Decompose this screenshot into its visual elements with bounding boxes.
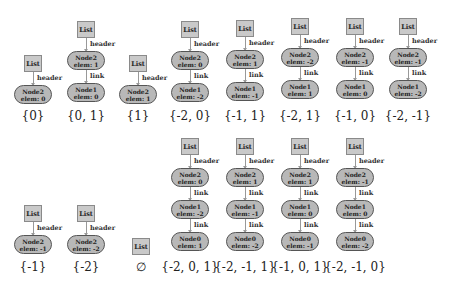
edge-label: link <box>359 221 373 229</box>
edge-label: link <box>90 72 104 80</box>
list-node: Node2elem: 0 <box>171 168 209 187</box>
list-node: Node2elem: 1 <box>67 51 105 70</box>
node-elem: elem: -2 <box>227 242 263 249</box>
node-elem: elem: -2 <box>390 90 426 97</box>
edge-label: link <box>249 71 263 79</box>
node-name: Node0 <box>227 235 263 242</box>
node-elem: elem: 1 <box>282 178 318 185</box>
edge-label: header <box>359 157 384 165</box>
edge-label: link <box>194 72 208 80</box>
edge-arrow <box>355 35 356 48</box>
list-box: List <box>291 18 309 35</box>
node-name: Node1 <box>172 86 208 93</box>
node-elem: elem: 1 <box>227 178 263 185</box>
set-label: ∅ <box>136 260 146 274</box>
list-node: Node1elem: -2 <box>389 80 427 99</box>
list-node: Node2elem: -1 <box>336 48 374 67</box>
edge-arrow <box>355 155 356 168</box>
edge-label: link <box>412 69 426 77</box>
list-node: Node1elem: 0 <box>67 83 105 102</box>
list-node: Node0elem: 1 <box>171 232 209 251</box>
edge-arrow <box>245 187 246 200</box>
list-box: List <box>346 18 364 35</box>
edge-label: header <box>359 37 384 45</box>
node-name: Node1 <box>227 203 263 210</box>
edge-label: header <box>304 37 329 45</box>
edge-label: header <box>249 39 274 47</box>
list-box: List <box>236 138 254 155</box>
edge-label: link <box>194 221 208 229</box>
list-box: List <box>24 205 42 222</box>
edge-arrow <box>245 219 246 232</box>
edge-label: header <box>412 37 437 45</box>
set-label: {-2, 0} <box>169 109 211 123</box>
node-elem: elem: 0 <box>172 61 208 68</box>
node-elem: elem: -2 <box>68 245 104 252</box>
edge-arrow <box>245 69 246 82</box>
node-name: Node1 <box>390 83 426 90</box>
edge-label: link <box>304 189 318 197</box>
node-name: Node1 <box>337 83 373 90</box>
node-name: Node2 <box>227 171 263 178</box>
list-node: Node2elem: 1 <box>226 50 264 69</box>
edge-arrow <box>245 155 246 168</box>
node-name: Node2 <box>337 51 373 58</box>
edge-label: header <box>37 74 62 82</box>
edge-arrow <box>300 187 301 200</box>
list-box: List <box>132 238 150 255</box>
set-label: {-2} <box>73 260 100 274</box>
list-node: Node2elem: 0 <box>14 85 52 104</box>
edge-arrow <box>300 155 301 168</box>
node-elem: elem: 1 <box>120 95 156 102</box>
edge-label: header <box>304 157 329 165</box>
list-node: Node1elem: 0 <box>281 200 319 219</box>
list-node: Node2elem: -1 <box>336 168 374 187</box>
set-label: {0, 1} <box>67 109 105 123</box>
edge-arrow <box>245 37 246 50</box>
edge-arrow <box>190 70 191 83</box>
edge-label: link <box>359 69 373 77</box>
list-box: List <box>181 21 199 38</box>
list-box: List <box>291 138 309 155</box>
node-elem: elem: 0 <box>68 93 104 100</box>
node-name: Node1 <box>282 203 318 210</box>
node-name: Node2 <box>390 51 426 58</box>
node-elem: elem: 0 <box>172 178 208 185</box>
edge-label: header <box>194 40 219 48</box>
node-elem: elem: 1 <box>282 90 318 97</box>
list-node: Node1elem: -1 <box>226 200 264 219</box>
edge-arrow <box>138 72 139 85</box>
list-box: List <box>129 55 147 72</box>
node-name: Node0 <box>282 235 318 242</box>
node-elem: elem: -2 <box>172 93 208 100</box>
set-label: {-1, 0} <box>334 109 376 123</box>
edge-label: header <box>249 157 274 165</box>
node-elem: elem: -1 <box>390 58 426 65</box>
node-name: Node2 <box>120 88 156 95</box>
edge-arrow <box>190 38 191 51</box>
edge-arrow <box>86 70 87 83</box>
set-label: {0} <box>22 109 45 123</box>
set-label: {-2, -1} <box>385 109 431 123</box>
node-name: Node2 <box>68 238 104 245</box>
node-elem: elem: 0 <box>282 210 318 217</box>
edge-arrow <box>408 35 409 48</box>
list-node: Node1elem: -2 <box>171 83 209 102</box>
list-node: Node0elem: -1 <box>281 232 319 251</box>
node-name: Node2 <box>172 171 208 178</box>
node-elem: elem: -2 <box>337 242 373 249</box>
list-node: Node0elem: -2 <box>226 232 264 251</box>
node-name: Node2 <box>227 53 263 60</box>
list-box: List <box>399 18 417 35</box>
list-node: Node0elem: -2 <box>336 232 374 251</box>
edge-label: link <box>304 221 318 229</box>
node-name: Node2 <box>172 54 208 61</box>
node-elem: elem: -1 <box>15 245 51 252</box>
edge-label: link <box>249 221 263 229</box>
list-box: List <box>236 20 254 37</box>
edge-label: header <box>90 224 115 232</box>
list-node: Node1elem: 0 <box>336 80 374 99</box>
node-elem: elem: -1 <box>227 210 263 217</box>
edge-label: link <box>194 189 208 197</box>
edge-arrow <box>300 219 301 232</box>
